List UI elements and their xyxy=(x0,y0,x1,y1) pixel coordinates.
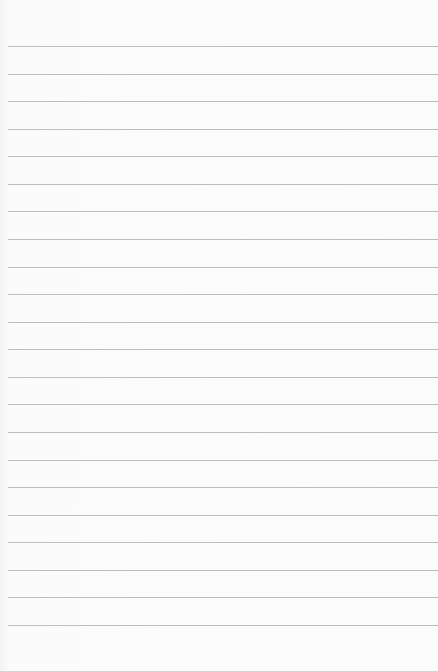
ruled-line xyxy=(8,377,438,378)
ruled-line xyxy=(8,487,438,488)
ruled-line xyxy=(8,46,438,47)
ruled-line xyxy=(8,542,438,543)
ruled-line xyxy=(8,404,438,405)
ruled-line xyxy=(8,432,438,433)
ruled-line xyxy=(8,239,438,240)
ruled-line xyxy=(8,184,438,185)
ruled-line xyxy=(8,597,438,598)
ruled-line xyxy=(8,211,438,212)
ruled-line xyxy=(8,129,438,130)
lined-paper-sheet xyxy=(0,0,438,671)
ruled-line xyxy=(8,322,438,323)
ruled-line xyxy=(8,460,438,461)
ruled-line xyxy=(8,294,438,295)
ruled-line xyxy=(8,101,438,102)
ruled-line xyxy=(8,267,438,268)
ruled-line xyxy=(8,156,438,157)
ruled-line xyxy=(8,570,438,571)
ruled-line xyxy=(8,349,438,350)
ruled-line xyxy=(8,74,438,75)
ruled-line xyxy=(8,515,438,516)
ruled-line xyxy=(8,625,438,626)
